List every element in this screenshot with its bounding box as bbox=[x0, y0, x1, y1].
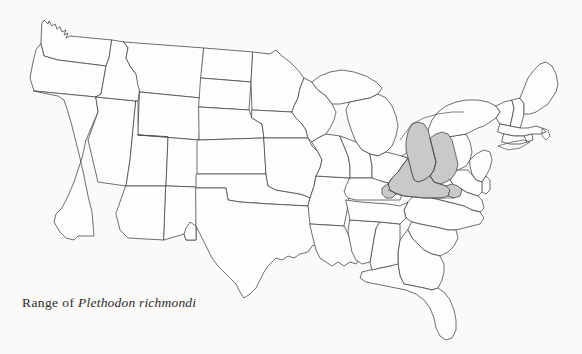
caption-prefix: Range of bbox=[22, 295, 78, 310]
state-arizona bbox=[116, 186, 166, 240]
figure-page: Range of Plethodon richmondi bbox=[0, 0, 582, 354]
state-north-dakota bbox=[201, 48, 253, 82]
state-california bbox=[34, 91, 98, 240]
state-wyoming bbox=[138, 92, 201, 140]
state-maine bbox=[520, 62, 558, 114]
state-tennessee bbox=[346, 200, 408, 224]
state-south-dakota bbox=[199, 78, 251, 110]
caption-species-name: Plethodon richmondi bbox=[78, 295, 196, 310]
state-arkansas bbox=[308, 176, 350, 226]
figure-caption: Range of Plethodon richmondi bbox=[22, 295, 196, 311]
state-outlines bbox=[30, 20, 558, 340]
state-kansas bbox=[197, 138, 266, 174]
